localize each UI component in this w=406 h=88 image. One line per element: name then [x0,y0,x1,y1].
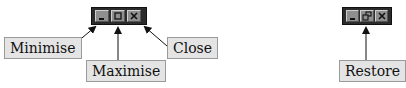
close-label: Close [167,37,218,59]
minimise-label: Minimise [4,37,82,59]
restore-label: Restore [339,60,406,82]
maximise-label: Maximise [86,60,166,82]
close-arrow [145,27,167,46]
